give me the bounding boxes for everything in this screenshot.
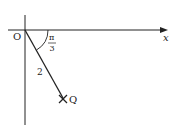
angle-numerator: π (49, 33, 54, 42)
origin-label: O (13, 31, 21, 42)
point-q-label: Q (69, 94, 77, 105)
argand-diagram: O x π 3 2 Q (0, 0, 180, 134)
segment-oq (25, 30, 63, 98)
segment-length-label: 2 (37, 67, 43, 77)
angle-arc (37, 30, 49, 50)
x-axis-label: x (163, 32, 169, 43)
angle-denominator: 3 (50, 44, 55, 53)
point-q-marker-icon (59, 95, 67, 103)
angle-label: π 3 (48, 33, 56, 53)
